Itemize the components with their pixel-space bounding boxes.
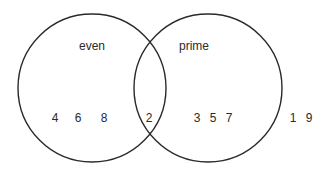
element-1: 1 — [290, 112, 297, 124]
even-set-label: even — [79, 40, 105, 52]
even-set-circle — [18, 14, 166, 162]
prime-set-label: prime — [179, 40, 209, 52]
venn-circles — [0, 0, 330, 173]
element-7: 7 — [226, 112, 233, 124]
element-4: 4 — [52, 112, 59, 124]
prime-set-circle — [134, 14, 282, 162]
element-9: 9 — [306, 112, 313, 124]
venn-diagram: even prime 4 6 8 2 3 5 7 1 9 — [0, 0, 330, 173]
element-3: 3 — [194, 112, 201, 124]
element-5: 5 — [210, 112, 217, 124]
element-6: 6 — [75, 112, 82, 124]
element-8: 8 — [101, 112, 108, 124]
element-2: 2 — [146, 112, 153, 124]
